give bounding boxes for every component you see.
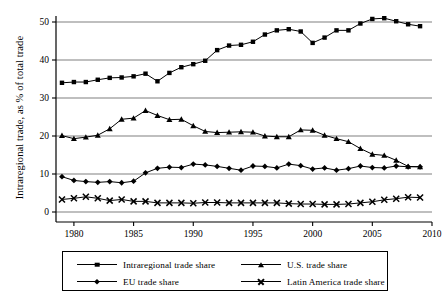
chart-legend: Intraregional trade share U.S. trade sha…	[62, 251, 388, 291]
marker-diamond	[346, 166, 352, 172]
marker-square	[418, 24, 422, 28]
marker-diamond	[405, 164, 411, 170]
y-tick-label-0: 0	[44, 207, 49, 217]
marker-diamond	[369, 165, 375, 171]
legend-label-eu: EU trade share	[117, 277, 179, 287]
marker-triangle	[95, 132, 101, 137]
marker-diamond	[238, 167, 244, 173]
legend-label-us: U.S. trade share	[281, 260, 347, 270]
marker-square	[203, 59, 207, 63]
legend-marker-square	[77, 260, 117, 270]
marker-triangle	[190, 123, 196, 128]
marker-diamond	[274, 165, 280, 171]
marker-square	[143, 71, 147, 75]
marker-square	[346, 28, 350, 32]
marker-square	[215, 48, 219, 52]
legend-item-eu-trade-share: EU trade share	[77, 277, 179, 287]
marker-diamond	[357, 163, 363, 169]
marker-triangle	[322, 132, 328, 137]
marker-square	[84, 80, 88, 84]
marker-triangle	[59, 133, 65, 138]
marker-diamond	[393, 163, 399, 169]
marker-diamond	[71, 178, 77, 184]
marker-diamond	[381, 165, 387, 171]
x-tick-label-1985: 1985	[124, 229, 143, 239]
marker-square	[298, 29, 302, 33]
marker-square	[358, 21, 362, 25]
marker-diamond	[190, 161, 196, 167]
legend-item-us-trade-share: U.S. trade share	[241, 260, 347, 270]
marker-square	[72, 80, 76, 84]
marker-diamond	[226, 165, 232, 171]
marker-diamond	[334, 167, 340, 173]
marker-diamond	[178, 165, 184, 171]
y-axis-label: Intraregional trade, as % of total trade	[14, 13, 25, 223]
marker-diamond	[298, 163, 304, 169]
y-tick-label-20: 20	[40, 131, 50, 141]
series-eu-trade-share	[59, 161, 423, 185]
x-tick-label-2010: 2010	[423, 229, 442, 239]
legend-item-latin-america-trade-share: Latin America trade share	[241, 277, 385, 287]
marker-triangle	[154, 112, 160, 117]
marker-triangle	[357, 146, 363, 151]
x-tick-label-1980: 1980	[64, 229, 83, 239]
marker-diamond	[250, 163, 256, 169]
marker-square	[287, 27, 291, 31]
series-line	[62, 111, 420, 167]
x-tick-label-2005: 2005	[363, 229, 382, 239]
legend-marker-diamond	[77, 277, 117, 287]
legend-label-latin-america: Latin America trade share	[281, 277, 385, 287]
marker-square	[119, 75, 123, 79]
marker-square	[227, 43, 231, 47]
x-tick-label-2000: 2000	[303, 229, 322, 239]
marker-diamond	[166, 164, 172, 170]
x-tick-label-1990: 1990	[184, 229, 203, 239]
marker-diamond	[262, 164, 268, 170]
marker-diamond	[155, 165, 161, 171]
marker-diamond	[214, 164, 220, 170]
marker-triangle	[393, 157, 399, 162]
y-tick-label-50: 50	[40, 17, 50, 27]
chart-svg: 010203040501980198519901995200020052010	[0, 0, 448, 240]
marker-diamond	[83, 179, 89, 185]
series-line	[62, 164, 420, 183]
marker-diamond	[310, 166, 316, 172]
marker-square	[239, 43, 243, 47]
marker-square	[179, 65, 183, 69]
marker-diamond	[322, 165, 328, 171]
marker-square	[382, 16, 386, 20]
marker-square	[167, 71, 171, 75]
series-latin-america-trade-share	[59, 194, 423, 208]
marker-square	[322, 35, 326, 39]
marker-square	[96, 78, 100, 82]
marker-square	[394, 19, 398, 23]
marker-diamond	[107, 179, 113, 185]
marker-diamond	[119, 180, 125, 186]
series-intraregional-trade-share	[60, 16, 422, 85]
chart-plot-area: 010203040501980198519901995200020052010 …	[0, 0, 448, 240]
marker-square	[334, 28, 338, 32]
marker-square	[155, 79, 159, 83]
y-tick-label-10: 10	[40, 169, 50, 179]
marker-diamond	[95, 179, 101, 185]
marker-diamond	[59, 174, 65, 180]
marker-square	[108, 76, 112, 80]
legend-item-intraregional-trade-share: Intraregional trade share	[77, 260, 215, 270]
marker-square	[191, 62, 195, 66]
marker-triangle	[143, 108, 149, 113]
marker-square	[275, 28, 279, 32]
series-u-s-trade-share	[59, 108, 423, 170]
y-tick-label-30: 30	[40, 93, 50, 103]
marker-square	[310, 41, 314, 45]
legend-label-intraregional: Intraregional trade share	[117, 260, 215, 270]
legend-marker-x	[241, 277, 281, 287]
series-line	[62, 18, 420, 83]
marker-square	[251, 40, 255, 44]
marker-square	[60, 81, 64, 85]
y-tick-label-40: 40	[40, 55, 50, 65]
chart-root: 010203040501980198519901995200020052010 …	[0, 0, 448, 299]
marker-diamond	[286, 161, 292, 167]
marker-square	[131, 74, 135, 78]
x-tick-label-1995: 1995	[243, 229, 262, 239]
marker-diamond	[202, 162, 208, 168]
